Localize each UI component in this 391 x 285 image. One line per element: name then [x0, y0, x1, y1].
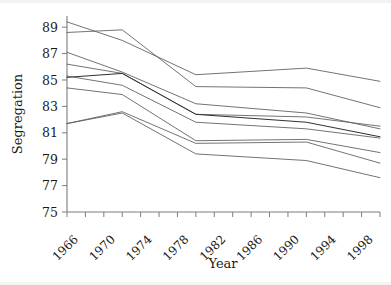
data-series-group	[67, 22, 380, 178]
x-tick-label: 1970	[86, 232, 117, 263]
chart-figure: 7577798183858789 19661970197419781982198…	[0, 0, 391, 285]
y-tick-label: 81	[42, 125, 58, 140]
x-tick-label: 1986	[234, 232, 265, 263]
y-axis-tick-labels: 7577798183858789	[42, 20, 58, 220]
y-tick-label: 89	[42, 20, 58, 35]
x-tick-label: 1998	[344, 232, 375, 263]
y-tick-label: 79	[42, 152, 58, 167]
x-axis-title: Year	[207, 256, 238, 271]
series-line-series-6	[67, 76, 380, 138]
y-tick-label: 85	[42, 73, 58, 88]
y-tick-label: 75	[42, 205, 58, 220]
series-line-series-3	[67, 52, 380, 129]
axes	[67, 16, 380, 212]
y-axis-ticks	[62, 27, 67, 212]
y-tick-label: 83	[42, 99, 58, 114]
x-tick-label: 1978	[160, 232, 191, 263]
y-tick-label: 87	[42, 46, 58, 61]
x-tick-label: 1966	[50, 232, 81, 263]
x-tick-label: 1974	[123, 232, 155, 264]
series-line-series-5	[67, 73, 380, 136]
x-tick-label: 1994	[307, 232, 339, 264]
x-tick-label: 1990	[271, 232, 302, 263]
x-axis-ticks	[67, 212, 380, 217]
y-tick-label: 77	[42, 178, 58, 193]
series-line-series-9	[67, 113, 380, 178]
y-axis-title: Segregation	[10, 73, 25, 154]
line-chart-plot: 7577798183858789 19661970197419781982198…	[0, 0, 391, 285]
